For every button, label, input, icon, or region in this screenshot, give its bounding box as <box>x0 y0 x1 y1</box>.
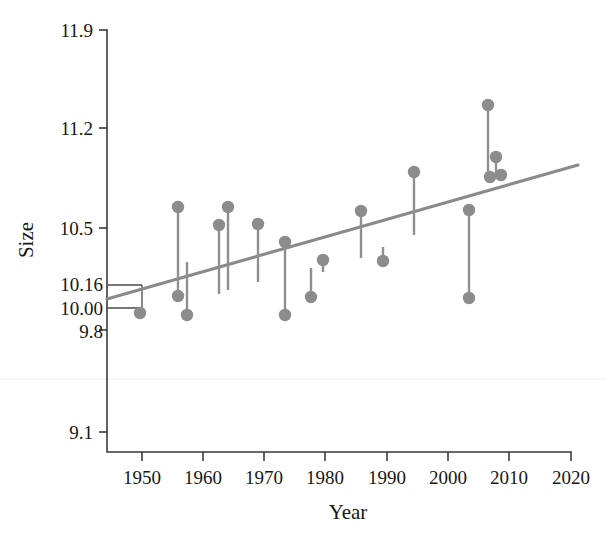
y-axis-ticks <box>99 30 107 432</box>
x-tick-label-2020: 2020 <box>552 467 590 488</box>
data-point <box>482 99 494 111</box>
x-tick-label-1950: 1950 <box>123 467 161 488</box>
data-point <box>463 204 475 216</box>
data-points <box>134 99 507 321</box>
data-point <box>252 218 264 230</box>
data-point <box>408 166 420 178</box>
data-point <box>355 205 367 217</box>
data-point <box>222 201 234 213</box>
data-point <box>305 291 317 303</box>
y-tick-label-10-00: 10.00 <box>60 298 103 319</box>
data-point <box>134 307 146 319</box>
data-point <box>490 151 502 163</box>
scatter-chart: 11.9 11.2 10.5 10.16 10.00 9.8 9.1 1950 … <box>0 0 606 537</box>
data-point <box>317 254 329 266</box>
x-axis-ticks <box>142 452 571 461</box>
x-axis-title: Year <box>329 500 368 524</box>
x-tick-label-1980: 1980 <box>306 467 344 488</box>
data-point <box>279 236 291 248</box>
data-point <box>172 290 184 302</box>
data-point <box>484 171 496 183</box>
data-point <box>279 309 291 321</box>
y-axis-title: Size <box>14 222 38 258</box>
pair-segments <box>140 105 496 315</box>
y-tick-label-11-9: 11.9 <box>60 20 93 41</box>
x-tick-label-1960: 1960 <box>184 467 222 488</box>
x-tick-label-1970: 1970 <box>245 467 283 488</box>
data-point <box>463 292 475 304</box>
data-point <box>213 219 225 231</box>
y-tick-label-11-2: 11.2 <box>60 118 93 139</box>
y-tick-label-10-5: 10.5 <box>60 218 93 239</box>
chart-canvas: 11.9 11.2 10.5 10.16 10.00 9.8 9.1 1950 … <box>0 0 606 537</box>
data-point <box>172 201 184 213</box>
x-tick-label-2010: 2010 <box>490 467 528 488</box>
y-tick-label-10-16: 10.16 <box>60 274 103 295</box>
data-point <box>495 169 507 181</box>
y-tick-label-9-8: 9.8 <box>79 321 103 342</box>
y-tick-label-9-1: 9.1 <box>69 422 93 443</box>
data-point <box>377 255 389 267</box>
x-tick-label-2000: 2000 <box>429 467 467 488</box>
axis-lines <box>107 30 571 452</box>
data-point <box>181 309 193 321</box>
x-tick-label-1990: 1990 <box>368 467 406 488</box>
